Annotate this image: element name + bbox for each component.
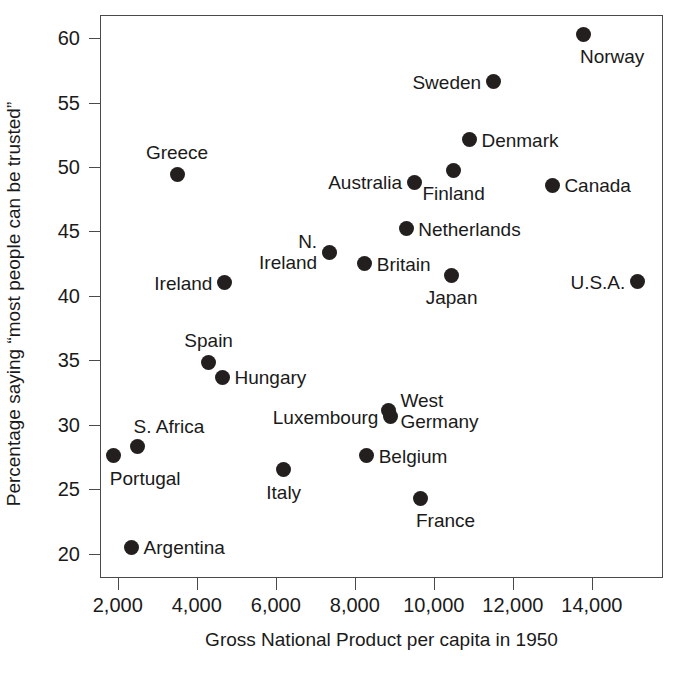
x-tick-mark	[118, 578, 119, 590]
data-point-label: West Germany	[400, 390, 478, 432]
data-point[interactable]	[545, 178, 560, 193]
data-point-label: Spain	[184, 330, 233, 351]
scatter-chart-figure: Percentage saying “most people can be tr…	[0, 0, 681, 675]
y-tick-label: 30	[34, 415, 80, 435]
x-tick-mark	[592, 578, 593, 590]
y-tick-label: 35	[34, 350, 80, 370]
data-point-label: Italy	[266, 482, 301, 503]
data-point-label: Belgium	[379, 445, 448, 466]
data-point[interactable]	[399, 221, 414, 236]
y-tick-label: 55	[34, 93, 80, 113]
data-point[interactable]	[124, 540, 139, 555]
y-tick-label: 20	[34, 544, 80, 564]
data-point-label: Denmark	[481, 129, 558, 150]
y-tick-mark	[89, 425, 101, 426]
data-point[interactable]	[407, 175, 422, 190]
y-tick-label: 60	[34, 28, 80, 48]
y-tick-mark	[89, 167, 101, 168]
data-point[interactable]	[630, 274, 645, 289]
y-tick-mark	[89, 38, 101, 39]
y-tick-mark	[89, 554, 101, 555]
data-point[interactable]	[413, 491, 428, 506]
data-point-label: Ireland	[154, 272, 212, 293]
data-point-label: Luxembourg	[273, 406, 379, 427]
data-point[interactable]	[444, 268, 459, 283]
data-point-label: Japan	[426, 287, 478, 308]
x-tick-mark	[355, 578, 356, 590]
data-point-label: N. Ireland	[259, 231, 317, 273]
y-tick-mark	[89, 360, 101, 361]
x-tick-mark	[434, 578, 435, 590]
data-point-label: U.S.A.	[570, 271, 625, 292]
x-axis-title: Gross National Product per capita in 195…	[100, 628, 663, 652]
y-tick-mark	[89, 296, 101, 297]
data-point-label: France	[416, 510, 475, 531]
x-tick-mark	[513, 578, 514, 590]
data-point-label: Australia	[328, 172, 402, 193]
x-tick-label: 14,000	[542, 594, 642, 616]
y-tick-mark	[89, 489, 101, 490]
data-point[interactable]	[322, 245, 337, 260]
data-point-label: Canada	[564, 175, 631, 196]
plot-area	[100, 15, 663, 578]
y-axis-title: Percentage saying “most people can be tr…	[1, 23, 27, 586]
data-point-label: Hungary	[234, 367, 306, 388]
y-tick-label: 45	[34, 221, 80, 241]
data-point[interactable]	[215, 370, 230, 385]
y-tick-mark	[89, 231, 101, 232]
data-point[interactable]	[170, 167, 185, 182]
data-point-label: Portugal	[110, 468, 181, 489]
x-tick-mark	[197, 578, 198, 590]
y-tick-label: 40	[34, 286, 80, 306]
data-point-label: Norway	[580, 46, 644, 67]
data-point-label: Britain	[377, 253, 431, 274]
x-tick-mark	[276, 578, 277, 590]
data-point-label: Finland	[422, 183, 484, 204]
data-point-label: Greece	[146, 142, 208, 163]
y-tick-label: 50	[34, 157, 80, 177]
data-point-label: Netherlands	[418, 218, 520, 239]
data-point-label: S. Africa	[134, 416, 205, 437]
data-point-label: Argentina	[144, 537, 225, 558]
data-point-label: Sweden	[412, 71, 481, 92]
y-tick-mark	[89, 103, 101, 104]
y-tick-label: 25	[34, 479, 80, 499]
